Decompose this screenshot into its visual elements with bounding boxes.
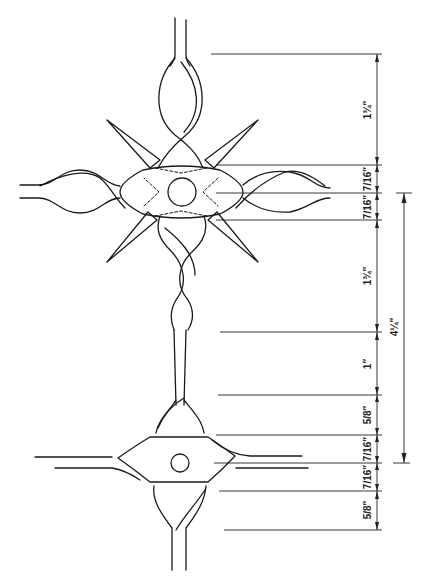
dim-label: 5/8″ xyxy=(362,500,373,519)
drawing-canvas: 1¾″ 7/16″ 7/16″ 1¾″ 1″ 5/8″ 7/16″ 7/16″ … xyxy=(0,0,427,588)
dim-label: 5/8″ xyxy=(362,405,373,424)
star-ray xyxy=(205,120,258,168)
lower-center-hole xyxy=(171,454,189,472)
star-ray xyxy=(107,212,157,262)
dim-label: 1¾″ xyxy=(362,100,373,119)
dimension-annotations xyxy=(211,54,412,530)
dim-label: 7/16″ xyxy=(362,195,373,219)
overall-dim-label: 4¼″ xyxy=(389,317,400,336)
lower-cross-ornament xyxy=(35,398,308,570)
dimension-labels: 1¾″ 7/16″ 7/16″ 1¾″ 1″ 5/8″ 7/16″ 7/16″ … xyxy=(362,100,400,519)
dim-label: 7/16″ xyxy=(362,465,373,489)
center-hole xyxy=(168,178,196,206)
dim-label: 7/16″ xyxy=(362,167,373,191)
dim-label: 1¾″ xyxy=(362,266,373,285)
upper-cross-ornament xyxy=(20,18,330,405)
star-ray xyxy=(208,212,258,262)
dim-label: 1″ xyxy=(362,359,373,370)
star-ray xyxy=(107,120,160,168)
dim-label: 7/16″ xyxy=(362,437,373,461)
